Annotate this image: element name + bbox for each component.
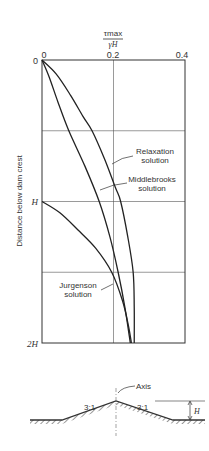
relaxation-label-line2: solution <box>141 156 169 165</box>
annotation-jurgenson: Jurgenson solution <box>59 281 113 299</box>
x-tick-label: 0.4 <box>176 50 189 60</box>
annotation-relaxation: Relaxation solution <box>112 147 174 165</box>
height-label: H <box>193 407 201 416</box>
jurgenson-label-line2: solution <box>64 290 92 299</box>
slope-right-label: 3:1 <box>137 403 149 412</box>
relaxation-label-line1: Relaxation <box>136 147 174 156</box>
x-axis-label-denominator: γH <box>109 40 119 49</box>
y-axis-label: Distance below dam crest <box>15 154 24 246</box>
jurgenson-leader-arrow <box>101 284 113 290</box>
slope-left-label: 3:1 <box>84 403 96 412</box>
y-tick-label: 0 <box>33 56 38 66</box>
middlebrooks-label-line1: Middlebrooks <box>128 175 176 184</box>
y-tick-label: 2H <box>27 339 39 349</box>
x-tick-label: 0 <box>41 50 46 60</box>
dam-section-diagram: Axis 3:1 3:1 H <box>30 382 205 436</box>
ground-hatching <box>30 401 205 424</box>
shear-stress-chart: τmax γH 0 0.2 0.4 0 H 2H Distance below … <box>0 0 209 451</box>
grid <box>42 60 185 343</box>
x-tick-label: 0.2 <box>107 50 120 60</box>
axis-leader-arrow <box>118 386 135 393</box>
x-axis-label-numerator: τmax <box>104 29 122 38</box>
axis-label: Axis <box>136 382 151 391</box>
jurgenson-label-line1: Jurgenson <box>59 281 96 290</box>
middlebrooks-label-line2: solution <box>138 184 166 193</box>
relaxation-leader-arrow <box>112 156 133 164</box>
y-tick-label: H <box>31 197 39 207</box>
